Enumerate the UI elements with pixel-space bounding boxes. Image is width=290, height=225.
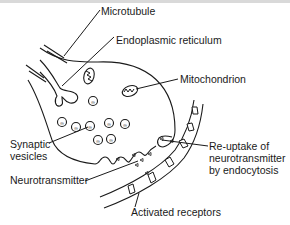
label-mitochondrion: Mitochondrion xyxy=(180,73,246,85)
receptor xyxy=(128,184,135,194)
label-synaptic-vesicles-line2: vesicles xyxy=(10,150,47,162)
label-reuptake-line1: Re-uptake of xyxy=(209,140,269,152)
receptor xyxy=(192,107,198,114)
vesicle-glyph: ∞ xyxy=(60,120,64,126)
neurotransmitter-molecule xyxy=(135,164,138,167)
label-reuptake-line2: neurotransmitter xyxy=(209,152,286,164)
endoplasmic-reticulum xyxy=(40,60,78,106)
leader-synaptic-vesicles xyxy=(49,127,88,143)
mitochondria xyxy=(82,67,139,98)
vesicle-glyph: ∞ xyxy=(109,137,113,143)
neurotransmitter-molecules xyxy=(116,138,173,175)
leader-microtubule xyxy=(64,10,100,56)
vesicle-glyph: ∞ xyxy=(96,138,100,144)
vesicle-glyph: ∞ xyxy=(91,99,95,105)
vesicle-glyph: ∞ xyxy=(107,121,111,127)
neurotransmitter-molecule xyxy=(140,159,143,162)
postsynaptic-membrane xyxy=(100,100,203,208)
postsynaptic-outer-line xyxy=(100,100,194,197)
receptor xyxy=(148,172,156,183)
label-reuptake-line3: by endocytosis xyxy=(209,164,278,176)
mitochondrion xyxy=(121,84,139,99)
label-microtubule: Microtubule xyxy=(101,5,155,17)
label-activated-receptors: Activated receptors xyxy=(131,206,221,218)
terminal-membrane-bottom xyxy=(95,146,156,164)
vesicle-glyph: ∞ xyxy=(123,122,127,128)
vesicle-glyph: ∞ xyxy=(74,125,78,131)
synaptic-vesicles: ∞ ∞ ∞ ∞ ∞ ∞ ∞ ∞ xyxy=(58,97,130,145)
label-neurotransmitter: Neurotransmitter xyxy=(10,174,89,186)
postsynaptic-inner-line xyxy=(104,104,203,208)
label-synaptic-vesicles-line1: Synaptic xyxy=(10,138,50,150)
label-endoplasmic-reticulum: Endoplasmic reticulum xyxy=(116,34,222,46)
synapse-diagram: ∞ ∞ ∞ ∞ ∞ ∞ ∞ ∞ xyxy=(0,0,290,225)
receptor xyxy=(187,123,194,131)
leader-activated-receptors xyxy=(135,193,139,207)
vesicle-glyph: ∞ xyxy=(88,124,92,130)
